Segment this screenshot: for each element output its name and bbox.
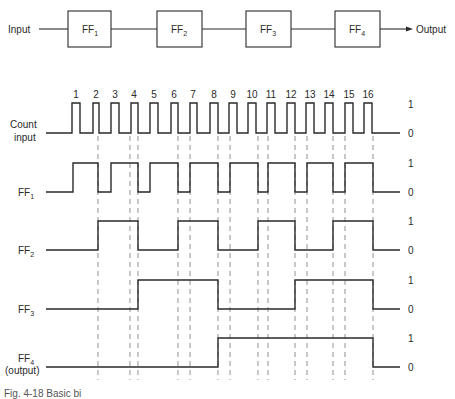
- count-input-label: Count: [10, 119, 37, 130]
- ff1-signal-label: FF1: [18, 187, 34, 200]
- svg-text:5: 5: [151, 89, 157, 100]
- count-input-label-2: input: [14, 132, 36, 143]
- block-diagram: Input FF1 FF2 FF3 FF4 Output: [8, 11, 446, 47]
- svg-text:0: 0: [408, 128, 414, 139]
- ff4-wave: [46, 338, 400, 367]
- guide-lines: [98, 136, 373, 380]
- pulse-numbers: 1 2 3 4 5 6 7 8 9 10 11 12 13 14 15 16: [73, 89, 374, 100]
- svg-text:0: 0: [408, 362, 414, 373]
- ff1-wave: [46, 163, 400, 192]
- svg-text:11: 11: [266, 89, 277, 100]
- ff3-signal-label: FF3: [18, 304, 34, 317]
- arrow-right-icon: [406, 27, 413, 32]
- level-labels: 1 0 1 0 1 0 1 0 1 0: [408, 99, 414, 373]
- svg-text:15: 15: [343, 89, 355, 100]
- svg-text:3: 3: [112, 89, 118, 100]
- svg-text:6: 6: [171, 89, 177, 100]
- svg-text:7: 7: [190, 89, 196, 100]
- ff2-wave: [46, 221, 400, 250]
- ff3-wave: [46, 280, 400, 309]
- figure-caption: Fig. 4-18 Basic bi: [4, 388, 81, 399]
- svg-text:9: 9: [230, 89, 236, 100]
- svg-text:1: 1: [408, 275, 414, 286]
- svg-text:1: 1: [408, 216, 414, 227]
- count-input-wave: [46, 103, 400, 133]
- svg-text:8: 8: [211, 89, 217, 100]
- svg-text:0: 0: [408, 304, 414, 315]
- svg-text:0: 0: [408, 245, 414, 256]
- ff2-signal-label: FF2: [18, 245, 34, 258]
- input-label: Input: [8, 24, 30, 35]
- ff4-output-label: (output): [5, 365, 39, 376]
- svg-text:2: 2: [93, 89, 99, 100]
- svg-text:0: 0: [408, 187, 414, 198]
- svg-text:4: 4: [131, 89, 137, 100]
- svg-text:1: 1: [408, 333, 414, 344]
- svg-text:1: 1: [408, 158, 414, 169]
- svg-text:12: 12: [285, 89, 297, 100]
- svg-text:14: 14: [323, 89, 335, 100]
- svg-text:10: 10: [246, 89, 258, 100]
- signal-labels: Count input FF1 FF2 FF3 FF4 (output): [5, 119, 39, 376]
- output-label: Output: [416, 24, 446, 35]
- svg-text:1: 1: [408, 99, 414, 110]
- svg-text:16: 16: [362, 89, 374, 100]
- svg-text:1: 1: [73, 89, 79, 100]
- svg-text:13: 13: [304, 89, 316, 100]
